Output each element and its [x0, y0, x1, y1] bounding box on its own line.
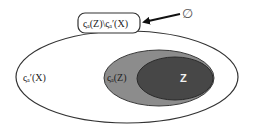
- outer-set-label: ςₐ′(X): [23, 72, 46, 84]
- middle-set-label: ςₐ(Z): [107, 72, 126, 84]
- empty-set-symbol: ∅: [182, 6, 193, 21]
- inner-set-label: Z: [180, 72, 187, 84]
- arrow-line: [144, 14, 180, 22]
- inner-set-ellipse: [137, 57, 213, 100]
- nested-sets-diagram: ςₐ′(X) ςₐ(Z) Z ςₐ(Z)\ςₐ′(X) ∅: [0, 0, 253, 130]
- difference-box-label: ςₐ(Z)\ςₐ′(X): [83, 18, 128, 30]
